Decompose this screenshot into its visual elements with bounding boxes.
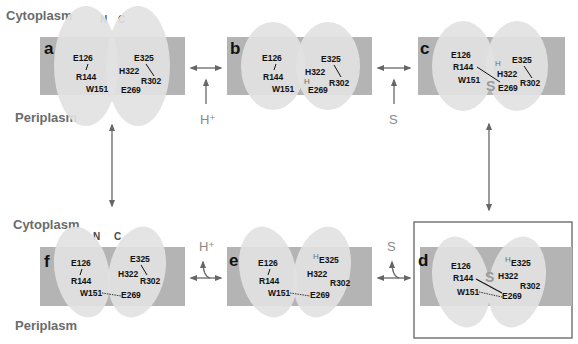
- residue-e126: E126: [262, 53, 282, 63]
- residue-e126: E126: [73, 53, 93, 63]
- panel-b: b E126 R144 W151 E325 H322 H R302 E269: [227, 22, 372, 110]
- proton-h: H: [495, 59, 501, 68]
- panel-label: c: [420, 39, 429, 58]
- c-domain: [296, 22, 360, 110]
- substrate-s: S: [485, 269, 494, 285]
- residue-e325: E325: [321, 54, 341, 64]
- proton-input-label: H⁺: [200, 112, 216, 127]
- residue-r302: R302: [329, 78, 350, 88]
- residue-r144: R144: [453, 273, 474, 283]
- residue-w151: W151: [268, 288, 290, 298]
- panel-e: e E126 R144 W151 E269 H E325 H322 R302: [227, 221, 372, 323]
- panel-label: f: [44, 252, 50, 271]
- proton-release-label: H⁺: [199, 239, 215, 254]
- c-terminal-label-bottom: C: [114, 231, 121, 242]
- residue-e325: E325: [511, 258, 531, 268]
- residue-e126: E126: [451, 261, 471, 271]
- n-domain: [46, 221, 118, 322]
- panel-label: d: [418, 251, 428, 270]
- residue-r144: R144: [259, 276, 280, 286]
- residue-r144: R144: [71, 276, 92, 286]
- transport-cycle-diagram: Cytoplasm Periplasm Cytoplasm Periplasm …: [0, 0, 578, 344]
- n-domain: [241, 22, 305, 110]
- residue-e269: E269: [498, 83, 518, 93]
- residue-e269: E269: [308, 85, 328, 95]
- residue-w151: W151: [457, 287, 479, 297]
- panel-label: b: [230, 39, 240, 58]
- panel-label: a: [44, 39, 54, 58]
- residue-e126: E126: [71, 258, 91, 268]
- residue-e126: E126: [451, 50, 471, 60]
- residue-r302: R302: [520, 78, 541, 88]
- residue-e269: E269: [310, 290, 330, 300]
- residue-h322: H322: [305, 67, 326, 77]
- residue-r144: R144: [76, 72, 97, 82]
- cytoplasm-label-top: Cytoplasm: [6, 8, 72, 23]
- residue-e126: E126: [258, 258, 278, 268]
- residue-e325: E325: [319, 255, 339, 265]
- residue-h322: H322: [119, 66, 140, 76]
- proton-release-arrow: [203, 262, 210, 278]
- substrate-s: S: [486, 78, 495, 94]
- residue-r144: R144: [453, 62, 474, 72]
- substrate-input-label: S: [389, 112, 398, 127]
- panel-a: a E126 R144 W151 E325 H322 R302 E269: [40, 6, 185, 126]
- residue-e325: E325: [130, 254, 150, 264]
- residue-h322: H322: [498, 271, 519, 281]
- panel-d: d E126 R144 W151 E269 S H322 H E325 R302: [418, 231, 572, 333]
- residue-r302: R302: [140, 276, 161, 286]
- panel-f: f E126 R144 W151 E269 E325 H322 R302: [40, 221, 185, 323]
- panel-label: e: [229, 251, 238, 270]
- residue-h322: H322: [497, 69, 518, 79]
- substrate-release-label: S: [387, 239, 396, 254]
- residue-w151: W151: [458, 75, 480, 85]
- residue-e269: E269: [121, 290, 141, 300]
- residue-h322: H322: [118, 269, 139, 279]
- residue-e325: E325: [512, 55, 532, 65]
- residue-w151: W151: [80, 288, 102, 298]
- residue-r144: R144: [263, 72, 284, 82]
- residue-e269: E269: [121, 85, 141, 95]
- residue-e269: E269: [502, 291, 522, 301]
- residue-w151: W151: [86, 84, 108, 94]
- residue-r302: R302: [141, 76, 162, 86]
- residue-e325: E325: [134, 53, 154, 63]
- substrate-release-arrow: [392, 262, 399, 278]
- panel-c: c E126 R144 W151 H E325 H322 S E269 R302: [418, 21, 565, 111]
- residue-w151: W151: [272, 84, 294, 94]
- residue-r302: R302: [330, 278, 351, 288]
- residue-h322: H322: [307, 269, 328, 279]
- residue-r302: R302: [520, 281, 541, 291]
- periplasm-label-bottom: Periplasm: [15, 318, 77, 333]
